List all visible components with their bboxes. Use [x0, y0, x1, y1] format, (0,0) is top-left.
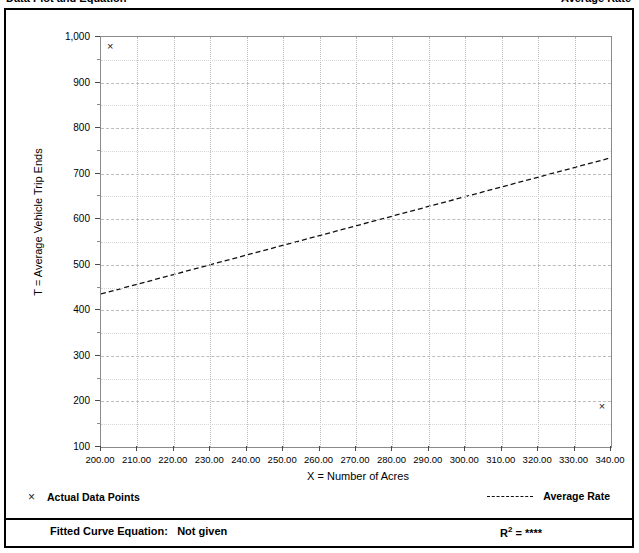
r-squared: R2 = **** — [500, 525, 542, 539]
legend-item-actual-data-points: × Actual Data Points — [28, 490, 140, 504]
y-axis-tick — [95, 218, 100, 219]
y-axis-tick — [95, 127, 100, 128]
x-axis-tick — [209, 446, 210, 451]
y-axis-minor-tick — [97, 59, 100, 60]
y-axis-tick — [95, 264, 100, 265]
fitted-curve-equation-value: Not given — [177, 525, 227, 537]
x-axis-tick — [574, 446, 575, 451]
gridline-horizontal — [101, 219, 611, 220]
y-axis-tick-label: 200 — [26, 395, 90, 406]
x-axis-tick — [173, 446, 174, 451]
y-axis-minor-tick — [97, 150, 100, 151]
chart-legend: × Actual Data Points Average Rate — [6, 490, 632, 516]
y-axis-tick-label: 500 — [26, 258, 90, 269]
y-axis-minor-tick — [97, 241, 100, 242]
y-axis-minor-tick — [97, 104, 100, 105]
fitted-curve-equation: Fitted Curve Equation: Not given — [50, 525, 227, 537]
y-axis-minor-tick — [97, 287, 100, 288]
gridline-horizontal — [101, 174, 611, 175]
y-axis-minor-tick — [97, 378, 100, 379]
data-point-marker: × — [596, 401, 607, 412]
gridline-horizontal — [101, 401, 611, 402]
gridline-horizontal — [101, 333, 611, 334]
dashed-line-icon — [487, 496, 533, 497]
y-axis-minor-tick — [97, 332, 100, 333]
gridline-horizontal — [101, 424, 611, 425]
chart-panel: T = Average Vehicle Trip Ends X = Number… — [4, 8, 634, 548]
y-axis-tick-label: 400 — [26, 304, 90, 315]
x-axis-tick — [428, 446, 429, 451]
x-axis-tick — [391, 446, 392, 451]
x-axis-tick — [537, 446, 538, 451]
x-axis-tick — [610, 446, 611, 451]
x-axis-tick — [246, 446, 247, 451]
x-axis-title: X = Number of Acres — [100, 470, 616, 482]
gridline-horizontal — [101, 356, 611, 357]
x-axis-tick-label: 340.00 — [580, 454, 639, 465]
chart-footer: Fitted Curve Equation: Not given R2 = **… — [6, 520, 632, 546]
page-header-right-title: Average Rate — [561, 0, 631, 4]
x-axis-tick — [464, 446, 465, 451]
gridline-horizontal — [101, 265, 611, 266]
y-axis-tick — [95, 82, 100, 83]
gridline-horizontal — [101, 105, 611, 106]
gridline-horizontal — [101, 379, 611, 380]
x-axis-tick — [100, 446, 101, 451]
y-axis-tick-label: 600 — [26, 213, 90, 224]
data-point-marker: × — [105, 41, 116, 52]
x-axis-tick — [136, 446, 137, 451]
legend-label-average-rate: Average Rate — [543, 490, 610, 502]
page-title: Data Plot and Equation — [6, 0, 126, 4]
y-axis-tick-label: 800 — [26, 122, 90, 133]
gridline-horizontal — [101, 310, 611, 311]
y-axis-tick-label: 1,000 — [26, 31, 90, 42]
legend-item-average-rate: Average Rate — [487, 490, 610, 502]
gridline-horizontal — [101, 60, 611, 61]
gridline-horizontal — [101, 83, 611, 84]
plot-area: ×× — [100, 36, 612, 448]
x-axis-tick — [501, 446, 502, 451]
x-axis-tick — [355, 446, 356, 451]
cross-marker-icon: × — [28, 490, 35, 504]
y-axis-tick-label: 900 — [26, 76, 90, 87]
y-axis-tick-label: 300 — [26, 349, 90, 360]
y-axis-minor-tick — [97, 195, 100, 196]
y-axis-minor-tick — [97, 423, 100, 424]
r-squared-equals: = — [512, 527, 525, 539]
y-axis-tick — [95, 355, 100, 356]
gridline-horizontal — [101, 288, 611, 289]
x-axis-tick — [282, 446, 283, 451]
y-axis-tick-label: 100 — [26, 441, 90, 452]
y-axis-tick — [95, 309, 100, 310]
y-axis-tick-label: 700 — [26, 167, 90, 178]
gridline-horizontal — [101, 196, 611, 197]
gridline-horizontal — [101, 151, 611, 152]
gridline-horizontal — [101, 128, 611, 129]
y-axis-tick — [95, 36, 100, 37]
fitted-curve-equation-label: Fitted Curve Equation: — [50, 525, 168, 537]
legend-label-actual-data-points: Actual Data Points — [47, 491, 140, 503]
gridline-horizontal — [101, 242, 611, 243]
r-squared-label: R — [500, 527, 508, 539]
y-axis-tick — [95, 400, 100, 401]
x-axis-tick — [319, 446, 320, 451]
page-header: Data Plot and Equation Average Rate — [0, 0, 639, 8]
y-axis-tick — [95, 173, 100, 174]
chart-area: T = Average Vehicle Trip Ends X = Number… — [6, 10, 632, 488]
r-squared-value: **** — [525, 527, 542, 539]
